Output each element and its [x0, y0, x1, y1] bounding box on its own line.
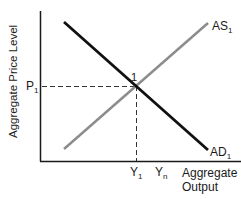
- x-axis-label-line2: Output: [182, 180, 219, 194]
- yn-label: Yn: [155, 165, 167, 181]
- as-ad-diagram: Aggregate Price Level P1 1 AS1 AD1 Y1 Yn…: [0, 0, 241, 199]
- equilibrium-label: 1: [131, 71, 137, 83]
- y-axis-label: Aggregate Price Level: [7, 25, 19, 138]
- as-curve-label: AS1: [212, 19, 233, 35]
- ad-curve-label: AD1: [210, 145, 232, 161]
- x-axis-label-line1: Aggregate: [182, 166, 238, 180]
- p1-label: P1: [26, 79, 39, 95]
- y1-label: Y1: [130, 165, 143, 181]
